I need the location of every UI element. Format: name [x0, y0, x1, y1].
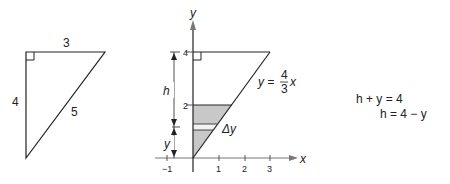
x-axis-arrow-icon — [289, 155, 298, 161]
hypotenuse-label: 5 — [71, 105, 78, 119]
y-tick-2: 2 — [183, 101, 188, 111]
y-length-label: y — [163, 137, 171, 151]
h-label: h — [163, 84, 170, 98]
x-axis-label: x — [299, 152, 307, 166]
left-triangle: 3 4 5 — [12, 36, 105, 158]
side-top-label: 3 — [63, 36, 70, 50]
line-eq-rhs: x — [289, 75, 297, 89]
y-axis-arrow-icon — [190, 20, 196, 30]
line-eq-numerator: 4 — [281, 68, 288, 82]
delta-y-label: Δy — [221, 122, 237, 136]
line-eq-lhs: y = — [257, 75, 274, 89]
graph: −1 1 2 3 2 4 x y h y Δy y = 4 3 x — [155, 6, 307, 174]
side-left-label: 4 — [12, 95, 19, 109]
x-tick-neg1: −1 — [162, 164, 172, 174]
x-tick-1: 1 — [216, 164, 221, 174]
equation-line-2: h = 4 − y — [380, 107, 427, 121]
y-tick-4: 4 — [183, 48, 188, 58]
x-tick-2: 2 — [242, 164, 247, 174]
y-axis-label: y — [189, 6, 197, 20]
line-equation: y = 4 3 x — [257, 68, 297, 96]
line-eq-denominator: 3 — [281, 82, 288, 96]
x-tick-3: 3 — [267, 164, 272, 174]
equation-line-1: h + y = 4 — [356, 92, 403, 106]
